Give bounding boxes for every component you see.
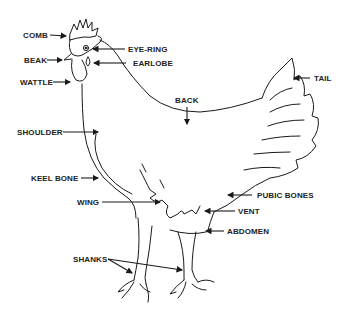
label-vent: VENT bbox=[238, 207, 260, 216]
label-earlobe: EARLOBE bbox=[133, 59, 173, 68]
label-eye-ring: EYE-RING bbox=[128, 45, 167, 54]
label-back: BACK bbox=[175, 96, 199, 105]
comb-arrow bbox=[50, 35, 66, 36]
label-tail: TAIL bbox=[314, 74, 332, 83]
label-abdomen: ABDOMEN bbox=[227, 227, 269, 236]
wing-shape bbox=[140, 170, 200, 218]
tail-feathers bbox=[214, 58, 318, 212]
label-shoulder: SHOULDER bbox=[17, 128, 63, 137]
left-leg bbox=[134, 218, 139, 280]
chicken-anatomy-diagram: COMB BEAK WATTLE EYE-RING EARLOBE BACK T… bbox=[0, 0, 343, 313]
label-wattle: WATTLE bbox=[20, 78, 53, 87]
shanks-arrow-2 bbox=[108, 259, 182, 270]
label-shanks: SHANKS bbox=[73, 255, 107, 264]
label-pubic-bones: PUBIC BONES bbox=[257, 191, 314, 200]
earlobe-shape bbox=[86, 57, 90, 66]
label-wing: WING bbox=[77, 198, 99, 207]
left-foot bbox=[118, 280, 150, 302]
chicken-illustration bbox=[0, 0, 343, 313]
comb-shape bbox=[70, 19, 98, 40]
right-leg bbox=[178, 232, 184, 280]
right-foot bbox=[170, 280, 214, 298]
abdomen-line bbox=[170, 230, 206, 234]
label-beak: BEAK bbox=[24, 56, 47, 65]
beak-shape bbox=[64, 54, 72, 60]
label-keel-bone: KEEL BONE bbox=[31, 174, 78, 183]
wattle-shape bbox=[72, 60, 88, 81]
label-comb: COMB bbox=[23, 31, 48, 40]
